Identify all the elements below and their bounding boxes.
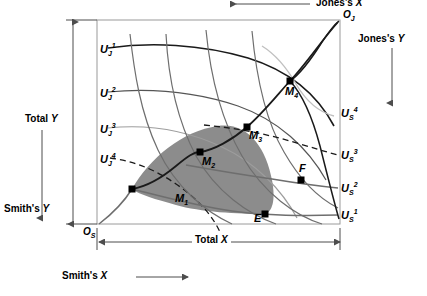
edgeworth-box-figure: UJ1 UJ2 UJ3 UJ4 US4 US3 US2 US1 M1 M2 M3… bbox=[0, 0, 427, 296]
origin-label-jones: OJ bbox=[343, 10, 355, 22]
jones-indifference-curve-1 bbox=[108, 45, 334, 126]
point-label-M3: M3 bbox=[249, 130, 262, 143]
smith-indifference-curve-US4 bbox=[262, 46, 334, 116]
curve-label-UJ3: UJ3 bbox=[100, 122, 116, 137]
origin-label-smith: OS bbox=[83, 227, 95, 239]
curve-label-UJ2: UJ2 bbox=[100, 86, 116, 101]
point-label-M2: M2 bbox=[202, 156, 215, 169]
diagram-canvas bbox=[0, 0, 427, 296]
axis-label-jones-x: Jones's X bbox=[316, 0, 362, 8]
point-marker-M1[interactable] bbox=[129, 186, 136, 193]
axis-label-smith-x: Smith's X bbox=[62, 271, 107, 281]
curve-label-US3: US3 bbox=[341, 148, 358, 163]
point-label-F: F bbox=[299, 163, 306, 174]
curve-label-US2: US2 bbox=[341, 181, 358, 196]
point-marker-M4[interactable] bbox=[287, 78, 294, 85]
point-label-M1: M1 bbox=[175, 193, 188, 206]
curve-label-US4: US4 bbox=[341, 106, 358, 121]
point-label-E: E bbox=[254, 213, 261, 224]
curve-label-UJ4: UJ4 bbox=[100, 152, 116, 167]
point-marker-F[interactable] bbox=[298, 177, 305, 184]
point-marker-E[interactable] bbox=[262, 211, 269, 218]
axis-label-total-y: Total Total YY bbox=[25, 114, 58, 124]
curve-label-UJ1: UJ1 bbox=[100, 42, 116, 57]
axis-label-smith-y: Smith's Y bbox=[4, 204, 49, 214]
point-label-M4: M4 bbox=[285, 86, 298, 99]
smith-curve-dark-right bbox=[290, 81, 339, 219]
axis-label-total-x: Total X bbox=[192, 235, 231, 245]
curve-label-US1: US1 bbox=[341, 208, 358, 223]
axis-label-jones-y: Jones's Y bbox=[358, 34, 404, 44]
